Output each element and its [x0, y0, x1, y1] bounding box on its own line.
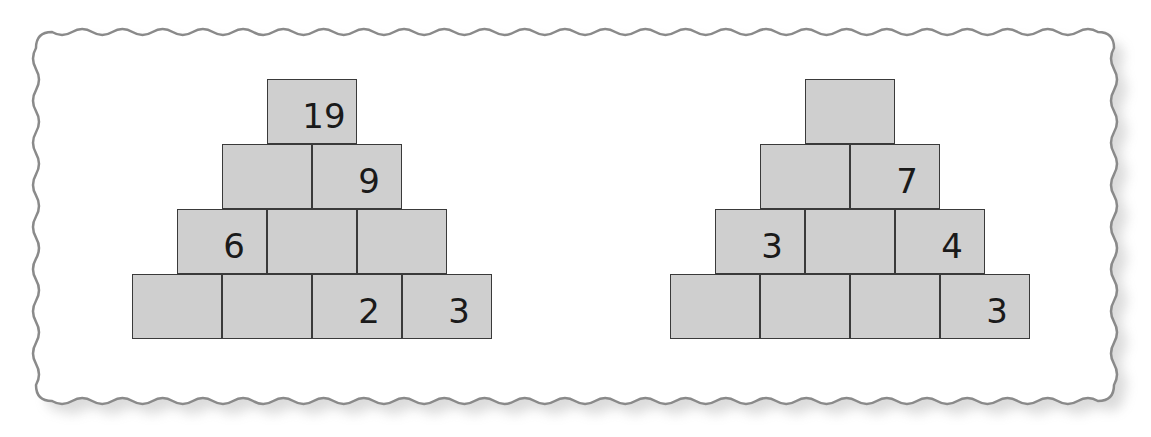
- cell-value: 3: [986, 291, 1008, 331]
- right-pyramid-cell-r4-c4: 3: [940, 274, 1030, 339]
- right-pyramid-cell-r2-c2: 7: [850, 144, 940, 209]
- left-pyramid-cell-r3-c1: 6: [177, 209, 267, 274]
- cell-value: 4: [941, 226, 963, 266]
- left-pyramid-cell-r2-c1: [222, 144, 312, 209]
- right-pyramid-cell-r4-c2: [760, 274, 850, 339]
- left-pyramid-cell-r4-c1: [132, 274, 222, 339]
- right-pyramid-cell-r4-c3: [850, 274, 940, 339]
- left-pyramid-cell-r3-c3: [357, 209, 447, 274]
- left-pyramid-cell-r3-c2: [267, 209, 357, 274]
- right-pyramid-cell-r3-c3: 4: [895, 209, 985, 274]
- left-pyramid-cell-r2-c2: 9: [312, 144, 402, 209]
- left-pyramid-cell-r4-c4: 3: [402, 274, 492, 339]
- right-pyramid-cell-r1-c1: [805, 79, 895, 144]
- cell-value: 19: [302, 96, 345, 136]
- cell-value: 3: [761, 226, 783, 266]
- cell-value: 2: [358, 291, 380, 331]
- cell-value: 9: [358, 161, 380, 201]
- right-pyramid-cell-r2-c1: [760, 144, 850, 209]
- left-pyramid-cell-r1-c1: 19: [267, 79, 357, 144]
- cell-value: 3: [448, 291, 470, 331]
- cell-value: 6: [223, 226, 245, 266]
- cell-value: 7: [896, 161, 918, 201]
- right-pyramid-cell-r4-c1: [670, 274, 760, 339]
- left-pyramid-cell-r4-c3: 2: [312, 274, 402, 339]
- left-pyramid-cell-r4-c2: [222, 274, 312, 339]
- right-pyramid-cell-r3-c1: 3: [715, 209, 805, 274]
- right-pyramid-cell-r3-c2: [805, 209, 895, 274]
